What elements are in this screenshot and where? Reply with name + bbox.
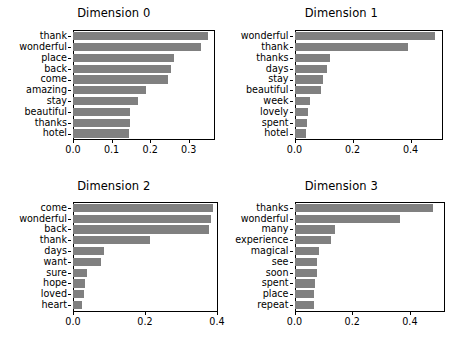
bar-row	[295, 290, 445, 298]
bar-series	[295, 202, 445, 312]
y-tick-label: back	[1, 65, 67, 73]
y-tick-label: stay	[229, 75, 289, 83]
bar	[73, 54, 174, 62]
bar-row	[73, 290, 218, 298]
y-tick-label: spent	[229, 279, 289, 287]
y-tick-label: days	[229, 65, 289, 73]
bar-row	[73, 269, 218, 277]
bar	[295, 129, 307, 137]
bar	[295, 86, 322, 94]
bar	[73, 301, 82, 309]
x-tick-label: 0.2	[137, 316, 152, 327]
bar-row	[73, 225, 218, 233]
x-tick	[353, 140, 354, 143]
bar	[295, 215, 400, 223]
x-tick	[411, 140, 412, 143]
bar-row	[73, 43, 215, 51]
x-tick	[73, 312, 74, 315]
bar	[73, 43, 201, 51]
panel-title: Dimension 0	[0, 6, 228, 20]
x-tick	[295, 312, 296, 315]
x-tick	[73, 140, 74, 143]
bar	[73, 86, 146, 94]
y-axis-tick-labels: thankswonderfulmanyexperiencemagicalsees…	[229, 202, 289, 312]
bar	[73, 65, 171, 73]
y-tick-label: many	[229, 225, 289, 233]
bar	[295, 225, 335, 233]
bar-row	[295, 54, 443, 62]
bar	[73, 32, 208, 40]
x-tick	[145, 312, 146, 315]
y-tick-label: thanks	[229, 204, 289, 212]
bar-row	[295, 43, 443, 51]
y-tick-label: beautiful	[229, 86, 289, 94]
x-tick-label: 0.4	[209, 316, 224, 327]
x-tick-label: 0.4	[402, 316, 417, 327]
bar-row	[73, 258, 218, 266]
x-tick-label: 0.2	[345, 144, 360, 155]
bar	[73, 97, 138, 105]
bar-row	[295, 204, 445, 212]
bar	[295, 279, 316, 287]
plot-area: comewonderfulbackthankdayswantsurehopelo…	[73, 202, 218, 312]
x-tick-label: 0.0	[287, 316, 302, 327]
y-tick-label: thanks	[1, 119, 67, 127]
bar	[295, 97, 311, 105]
y-tick-label: sure	[1, 269, 67, 277]
panel-dimension-2: Dimension 2 comewonderfulbackthankdayswa…	[0, 173, 228, 345]
x-tick	[410, 312, 411, 315]
y-tick-label: soon	[229, 269, 289, 277]
bar-row	[295, 215, 445, 223]
bar-row	[73, 119, 215, 127]
bar-row	[295, 301, 445, 309]
bar-row	[295, 119, 443, 127]
x-tick	[189, 140, 190, 143]
bar-row	[295, 108, 443, 116]
bar	[73, 119, 130, 127]
bar-row	[295, 247, 445, 255]
y-tick-label: loved	[1, 290, 67, 298]
panel-dimension-1: Dimension 1 wonderfulthankthanksdaysstay…	[228, 0, 455, 173]
x-tick	[217, 312, 218, 315]
x-tick	[112, 140, 113, 143]
bar-row	[295, 269, 445, 277]
bar-row	[73, 204, 218, 212]
y-tick-label: see	[229, 258, 289, 266]
y-tick-label: place	[1, 54, 67, 62]
bar	[73, 129, 129, 137]
bar-row	[295, 97, 443, 105]
y-tick-label: want	[1, 258, 67, 266]
x-tick-label: 0.4	[403, 144, 418, 155]
plot-area: thankwonderfulplacebackcomeamazingstaybe…	[73, 30, 215, 140]
bar-row	[73, 236, 218, 244]
y-tick-label: come	[1, 75, 67, 83]
y-tick-label: thank	[1, 32, 67, 40]
bar-series	[73, 202, 218, 312]
y-tick-label: wonderful	[1, 43, 67, 51]
bar-row	[73, 301, 218, 309]
x-axis: 0.00.20.4	[73, 312, 218, 332]
bar-row	[73, 86, 215, 94]
bar	[73, 290, 84, 298]
bar	[295, 247, 320, 255]
bar-row	[295, 86, 443, 94]
bar	[73, 279, 85, 287]
plot-area: wonderfulthankthanksdaysstaybeautifulwee…	[295, 30, 443, 140]
bar	[295, 119, 307, 127]
x-tick-label: 0.1	[104, 144, 119, 155]
bar	[73, 215, 211, 223]
bar	[295, 269, 317, 277]
panel-dimension-3: Dimension 3 thankswonderfulmanyexperienc…	[228, 173, 455, 345]
y-axis-tick-labels: wonderfulthankthanksdaysstaybeautifulwee…	[229, 30, 289, 140]
bar	[295, 32, 436, 40]
y-tick-label: experience	[229, 236, 289, 244]
y-tick-label: stay	[1, 97, 67, 105]
y-tick-label: hope	[1, 279, 67, 287]
x-axis: 0.00.20.4	[295, 312, 445, 332]
x-tick-label: 0.0	[287, 144, 302, 155]
bar-row	[295, 225, 445, 233]
bar-row	[295, 236, 445, 244]
y-tick-label: thank	[229, 43, 289, 51]
bar	[73, 247, 104, 255]
x-tick-label: 0.3	[181, 144, 196, 155]
